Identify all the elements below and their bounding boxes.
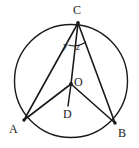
segment-CA (24, 23, 78, 120)
point-label-a: A (9, 123, 18, 135)
angle-label-y: y (63, 41, 67, 51)
angle-arc-y (69, 45, 76, 46)
geometry-diagram: C O D A B y z (0, 0, 139, 148)
segment-CB (78, 23, 115, 123)
point-label-o: O (74, 76, 83, 88)
point-label-b: B (118, 127, 126, 139)
vertex-dot-B (113, 121, 116, 124)
vertex-dot-C (76, 21, 80, 25)
vertex-dot-A (22, 118, 25, 121)
angle-label-z: z (76, 42, 80, 52)
vertex-dot-O (69, 82, 73, 86)
point-label-d: D (63, 108, 72, 120)
point-label-c: C (73, 4, 81, 16)
segment-OD (68, 84, 71, 106)
